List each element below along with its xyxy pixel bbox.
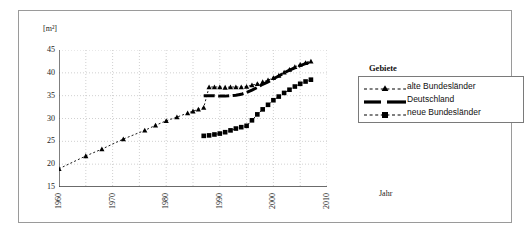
chart-figure: [m²] 15202530354045196019701980199020002… — [18, 10, 512, 223]
y-tick-label: 25 — [35, 137, 55, 145]
y-tick-label: 35 — [35, 92, 55, 100]
triangle-dashed-marker-icon — [363, 81, 407, 93]
y-tick-label: 30 — [35, 115, 55, 123]
x-tick-label: 1960 — [55, 193, 63, 209]
legend-title: Gebiete — [369, 63, 397, 73]
x-tick-label: 2010 — [323, 193, 331, 209]
square-dashed-marker-icon — [363, 107, 407, 119]
plot-area: 15202530354045196019701980199020002010 — [59, 50, 327, 187]
legend-entry-deutschland: Deutschland — [363, 93, 519, 106]
solid-line-marker-icon — [363, 94, 407, 106]
legend-label: alte Bundesländer — [407, 82, 476, 91]
legend-label: neue Bundesländer — [407, 108, 481, 117]
legend-label: Deutschland — [407, 95, 454, 104]
chart-canvas — [59, 50, 327, 187]
x-axis-title: Jahr — [379, 189, 392, 198]
chart-legend: alte Bundesländer Deutschland neue Bunde… — [358, 76, 524, 123]
y-tick-label: 20 — [35, 160, 55, 168]
legend-entry-alte-bundeslaender: alte Bundesländer — [363, 80, 519, 93]
y-tick-label: 40 — [35, 69, 55, 77]
y-tick-label: 45 — [35, 46, 55, 54]
x-tick-label: 1970 — [109, 193, 117, 209]
x-tick-label: 1990 — [216, 193, 224, 209]
x-tick-label: 2000 — [269, 193, 277, 209]
y-tick-label: 15 — [35, 183, 55, 191]
y-axis-unit-label: [m²] — [43, 24, 57, 33]
legend-entry-neue-bundeslaender: neue Bundesländer — [363, 106, 519, 119]
x-tick-label: 1980 — [162, 193, 170, 209]
